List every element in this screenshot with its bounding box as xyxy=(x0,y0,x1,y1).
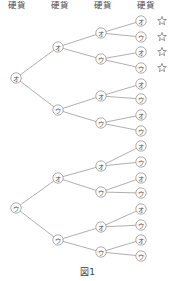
tree-edge xyxy=(20,211,54,237)
tree-edge xyxy=(20,81,54,107)
tree-edge xyxy=(106,53,136,58)
tree-node-l14: オ xyxy=(136,235,146,245)
tree-edge xyxy=(106,85,136,94)
tree-edge xyxy=(63,35,96,46)
node-label: オ xyxy=(138,206,144,213)
node-label: オ xyxy=(98,163,104,170)
node-label: オ xyxy=(138,175,144,182)
tree-edge xyxy=(106,192,136,193)
star-icon xyxy=(158,47,167,55)
tree-node-l11: ウ xyxy=(136,188,146,198)
tree-edge xyxy=(106,225,136,226)
tree-node-l12: オ xyxy=(136,204,146,214)
tree-node-m4: オ xyxy=(96,161,106,171)
node-label: ウ xyxy=(138,159,144,166)
star-icon xyxy=(158,16,167,24)
node-label: ウ xyxy=(138,190,144,197)
node-label: オ xyxy=(98,224,104,231)
tree-edge xyxy=(20,181,54,205)
tree-node-n0: オ xyxy=(53,42,63,52)
tree-node-n1: ウ xyxy=(53,105,63,115)
node-label: オ xyxy=(98,30,104,37)
tree-node-l2: オ xyxy=(136,47,146,57)
node-label: ウ xyxy=(98,249,104,256)
tree-node-l9: ウ xyxy=(136,157,146,167)
tree-node-l8: オ xyxy=(136,141,146,151)
tree-edge xyxy=(63,229,96,239)
tree-edge xyxy=(106,241,136,250)
tree-edge xyxy=(106,96,136,98)
node-label: ウ xyxy=(55,237,61,244)
tree-node-m3: ウ xyxy=(96,118,106,128)
tree-node-n3: ウ xyxy=(53,235,63,245)
node-label: オ xyxy=(138,237,144,244)
figure-caption: 図1 xyxy=(0,265,175,278)
tree-edge xyxy=(20,50,54,75)
star-icon xyxy=(158,32,167,40)
tree-edge xyxy=(106,163,136,166)
tree-node-l5: ウ xyxy=(136,94,146,104)
tree-edge xyxy=(63,112,96,122)
tree-edge xyxy=(63,48,96,57)
node-label: オ xyxy=(138,81,144,88)
star-icon xyxy=(158,63,167,71)
tree-node-l3: ウ xyxy=(136,63,146,73)
tree-edge xyxy=(63,167,96,176)
node-label: オ xyxy=(98,93,104,100)
node-label: オ xyxy=(138,18,144,25)
tree-node-n2: オ xyxy=(53,173,63,183)
tree-edge xyxy=(106,22,136,31)
tree-node-l6: オ xyxy=(136,110,146,120)
node-label: ウ xyxy=(138,34,144,41)
node-label: オ xyxy=(138,143,144,150)
tree-node-l10: オ xyxy=(136,173,146,183)
tree-edge xyxy=(106,253,136,256)
tree-edge xyxy=(106,34,136,37)
tree-node-l1: ウ xyxy=(136,32,146,42)
tree-node-m6: オ xyxy=(96,222,106,232)
node-label: ウ xyxy=(13,205,19,212)
tree-diagram: オウオウオウオウオウオウオウオウオウオウオウオウオウオウオウ xyxy=(0,0,175,281)
tree-node-m0: オ xyxy=(96,28,106,38)
node-label: オ xyxy=(13,75,19,82)
tree-node-l4: オ xyxy=(136,79,146,89)
node-label: オ xyxy=(55,44,61,51)
tree-node-m2: オ xyxy=(96,91,106,101)
node-label: ウ xyxy=(138,253,144,260)
tree-edges xyxy=(20,22,136,255)
tree-node-l13: ウ xyxy=(136,220,146,230)
tree-node-m7: ウ xyxy=(96,247,106,257)
tree-edge xyxy=(63,180,96,191)
tree-node-m5: ウ xyxy=(96,187,106,197)
tree-edge xyxy=(106,124,136,130)
tree-node-m1: ウ xyxy=(96,54,106,64)
node-label: オ xyxy=(138,112,144,119)
tree-edge xyxy=(106,116,136,122)
node-label: ウ xyxy=(98,56,104,63)
tree-edge xyxy=(106,148,137,163)
node-label: ウ xyxy=(138,65,144,72)
tree-edge xyxy=(106,180,136,191)
node-label: ウ xyxy=(138,96,144,103)
tree-node-r0: オ xyxy=(11,73,21,83)
node-label: ウ xyxy=(98,189,104,196)
star-marks xyxy=(158,16,167,71)
tree-edge xyxy=(106,60,136,67)
node-label: ウ xyxy=(98,120,104,127)
node-label: オ xyxy=(138,49,144,56)
node-label: ウ xyxy=(55,107,61,114)
tree-node-l15: ウ xyxy=(136,251,146,261)
coin-toss-tree-figure: 硬貨硬貨硬貨硬貨 オウオウオウオウオウオウオウオウオウオウオウオウオウオウオウ … xyxy=(0,0,175,281)
node-label: オ xyxy=(55,175,61,182)
tree-edge xyxy=(63,241,96,250)
node-label: ウ xyxy=(138,128,144,135)
node-label: ウ xyxy=(138,222,144,229)
tree-edge xyxy=(63,98,96,109)
tree-edge xyxy=(106,211,137,225)
tree-node-l7: ウ xyxy=(136,126,146,136)
tree-node-l0: オ xyxy=(136,16,146,26)
tree-node-r1: ウ xyxy=(11,203,21,213)
